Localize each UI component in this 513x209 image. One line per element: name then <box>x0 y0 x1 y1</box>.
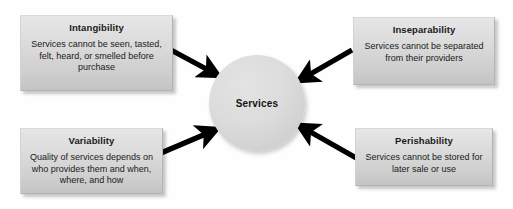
services-characteristics-diagram: Services Intangibility Services cannot b… <box>0 0 513 209</box>
concept-description-variability: Quality of services depends on who provi… <box>26 152 157 187</box>
concept-title-inseparability: Inseparability <box>359 24 489 36</box>
concept-box-intangibility: Intangibility Services cannot be seen, t… <box>20 15 173 91</box>
concept-title-variability: Variability <box>26 135 157 147</box>
arrow-variability-to-services <box>161 133 208 153</box>
services-center-node: Services <box>209 55 305 151</box>
arrow-perishability-to-services <box>307 130 358 159</box>
services-center-label: Services <box>236 98 279 109</box>
concept-description-inseparability: Services cannot be separated from their … <box>359 41 489 64</box>
arrow-intangibility-to-services <box>171 50 210 71</box>
arrow-inseparability-to-services <box>307 50 352 76</box>
concept-title-intangibility: Intangibility <box>26 22 167 34</box>
concept-description-perishability: Services cannot be stored for later sale… <box>361 152 487 175</box>
concept-description-intangibility: Services cannot be seen, tasted, felt, h… <box>26 39 167 74</box>
concept-box-variability: Variability Quality of services depends … <box>20 128 163 194</box>
concept-box-perishability: Perishability Services cannot be stored … <box>355 128 493 186</box>
concept-title-perishability: Perishability <box>361 135 487 147</box>
concept-box-inseparability: Inseparability Services cannot be separa… <box>353 17 495 85</box>
